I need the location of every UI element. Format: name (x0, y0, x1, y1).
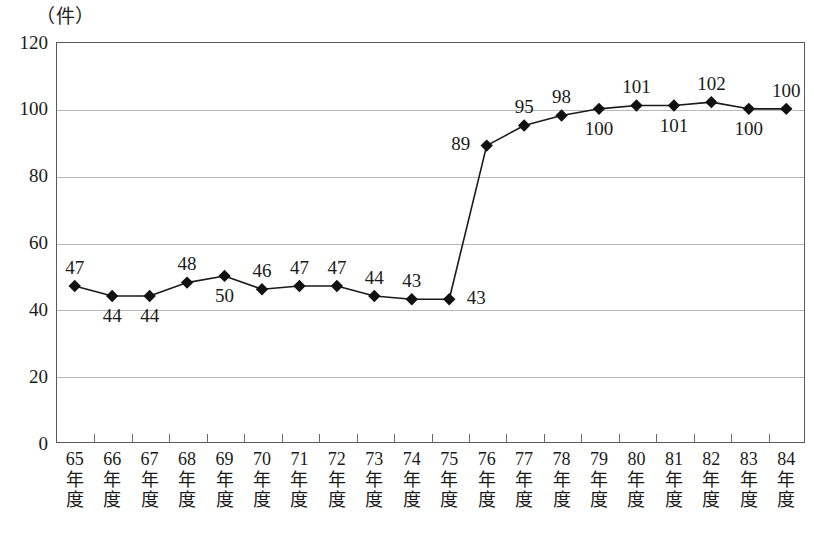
x-axis-tick (394, 434, 395, 442)
x-axis-tick (132, 434, 133, 442)
data-value-label: 47 (290, 258, 309, 277)
x-axis-category-label: 68年度 (168, 449, 205, 511)
data-value-label: 102 (697, 74, 726, 93)
data-value-label: 47 (65, 258, 84, 277)
y-axis-tick-label: 80 (0, 166, 48, 185)
x-axis-tick (581, 434, 582, 442)
y-axis-tick-label: 100 (0, 99, 48, 118)
x-axis-category-label: 67年度 (131, 449, 168, 511)
data-value-label: 100 (735, 119, 764, 138)
x-axis-tick (282, 434, 283, 442)
x-axis-tick (244, 434, 245, 442)
x-axis-category-label: 79年度 (580, 449, 617, 511)
data-value-label: 50 (215, 286, 234, 305)
y-axis-tick-label: 40 (0, 300, 48, 319)
x-axis-category-label: 69年度 (206, 449, 243, 511)
x-axis-tick (207, 434, 208, 442)
x-axis-category-label: 81年度 (655, 449, 692, 511)
x-axis-category-label: 80年度 (618, 449, 655, 511)
x-axis-category-label: 74年度 (393, 449, 430, 511)
line-chart: （件） 020406080100120 65年度66年度67年度68年度69年度… (0, 0, 814, 538)
plot-area (56, 42, 805, 443)
y-axis-unit-label: （件） (36, 6, 95, 28)
gridline (57, 110, 804, 111)
x-axis-category-label: 78年度 (543, 449, 580, 511)
data-value-label: 47 (327, 258, 346, 277)
x-axis-category-label: 83年度 (730, 449, 767, 511)
x-axis-tick (619, 434, 620, 442)
x-axis-category-label: 76年度 (468, 449, 505, 511)
data-value-label: 44 (365, 268, 384, 287)
x-axis-tick (169, 434, 170, 442)
x-axis-tick (769, 434, 770, 442)
data-value-label: 46 (252, 261, 271, 280)
x-axis-category-label: 73年度 (356, 449, 393, 511)
gridline (57, 177, 804, 178)
data-value-label: 101 (660, 116, 689, 135)
y-axis-tick-label: 20 (0, 367, 48, 386)
y-axis-tick-label: 0 (0, 434, 48, 453)
x-axis-category-label: 71年度 (281, 449, 318, 511)
gridline (57, 377, 804, 378)
x-axis-tick (656, 434, 657, 442)
x-axis-tick (694, 434, 695, 442)
x-axis-tick (94, 434, 95, 442)
x-axis-category-label: 65年度 (56, 449, 93, 511)
x-axis-tick (731, 434, 732, 442)
gridline (57, 310, 804, 311)
data-value-label: 101 (622, 77, 651, 96)
x-axis-tick (432, 434, 433, 442)
x-axis-category-label: 82年度 (693, 449, 730, 511)
y-axis-tick-label: 60 (0, 233, 48, 252)
gridline (57, 244, 804, 245)
data-value-label: 100 (585, 119, 614, 138)
data-value-label: 44 (140, 306, 159, 325)
data-value-label: 48 (178, 254, 197, 273)
y-axis-tick-label: 120 (0, 33, 48, 52)
data-value-label: 95 (515, 97, 534, 116)
data-value-label: 44 (103, 306, 122, 325)
x-axis-category-label: 84年度 (768, 449, 805, 511)
x-axis-tick (469, 434, 470, 442)
x-axis-category-label: 75年度 (431, 449, 468, 511)
x-axis-tick (544, 434, 545, 442)
x-axis-tick (319, 434, 320, 442)
x-axis-category-label: 70年度 (243, 449, 280, 511)
data-value-label: 43 (467, 288, 486, 307)
x-axis-category-label: 77年度 (505, 449, 542, 511)
x-axis-category-label: 66年度 (93, 449, 130, 511)
x-axis-tick (506, 434, 507, 442)
x-axis-category-label: 72年度 (318, 449, 355, 511)
data-value-label: 89 (451, 134, 470, 153)
data-value-label: 43 (402, 271, 421, 290)
data-value-label: 100 (772, 81, 801, 100)
data-value-label: 98 (552, 87, 571, 106)
x-axis-tick (357, 434, 358, 442)
